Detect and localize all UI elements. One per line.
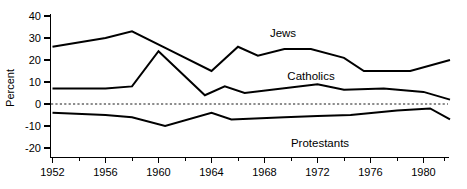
- y-tick-label: 30: [29, 32, 41, 44]
- series-label-protestants: Protestants: [291, 137, 349, 149]
- y-tick-label: 20: [29, 54, 41, 66]
- y-tick-label: 40: [29, 10, 41, 22]
- x-tick-label: 1976: [358, 166, 382, 178]
- x-axis-tick-labels: 1952 1956 1960 1964 1968 1972 1976 1980: [40, 166, 435, 178]
- y-axis-title: Percent: [4, 69, 16, 107]
- line-chart: 40 30 20 10 0 -10 -20 Percent: [0, 0, 467, 189]
- x-tick-label: 1956: [93, 166, 117, 178]
- y-axis-ticks: [44, 16, 51, 148]
- y-axis-tick-labels: 40 30 20 10 0 -10 -20: [25, 10, 41, 154]
- x-tick-label: 1960: [146, 166, 170, 178]
- series-label-catholics: Catholics: [287, 70, 335, 82]
- y-tick-label: -20: [25, 142, 41, 154]
- x-tick-label: 1964: [199, 166, 223, 178]
- series-label-jews: Jews: [270, 27, 296, 39]
- y-tick-label: 0: [35, 98, 41, 110]
- x-tick-label: 1952: [40, 166, 64, 178]
- x-tick-label: 1972: [305, 166, 329, 178]
- series-line-protestants: [53, 108, 451, 126]
- x-tick-label: 1980: [411, 166, 435, 178]
- series-line-catholics: [53, 51, 451, 99]
- x-tick-label: 1968: [252, 166, 276, 178]
- y-tick-label: 10: [29, 76, 41, 88]
- y-tick-label: -10: [25, 120, 41, 132]
- series-line-jews: [53, 31, 451, 71]
- chart-plot-area: 40 30 20 10 0 -10 -20 Percent: [0, 0, 467, 189]
